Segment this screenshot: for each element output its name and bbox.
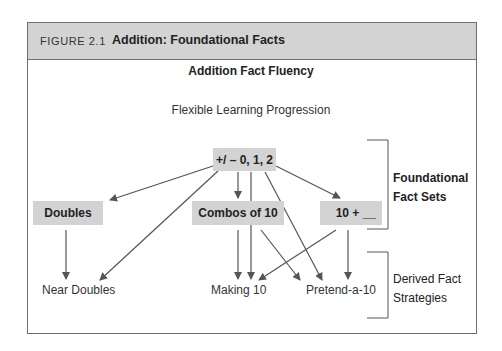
group-foundational-label: Foundational Fact Sets xyxy=(393,169,468,207)
node-near-doubles: Near Doubles xyxy=(42,283,115,297)
node-pretend-a-10: Pretend-a-10 xyxy=(306,283,376,297)
arrow-root-tenplus xyxy=(276,166,340,198)
arrow-root-near-doubles xyxy=(100,171,218,280)
node-doubles: Doubles xyxy=(33,201,103,225)
group-derived-line1: Derived Fact xyxy=(393,270,461,289)
node-combos-of-10: Combos of 10 xyxy=(192,201,284,225)
node-making-10: Making 10 xyxy=(211,283,266,297)
arrow-root-doubles xyxy=(110,166,213,200)
node-ten-plus: 10 + __ xyxy=(320,201,382,225)
group-derived-line2: Strategies xyxy=(393,289,461,308)
group-derived-label: Derived Fact Strategies xyxy=(393,270,461,308)
group-foundational-line2: Fact Sets xyxy=(393,188,468,207)
arrow-root-pretend xyxy=(265,172,322,280)
arrow-combos-pretend xyxy=(261,230,300,280)
group-foundational-line1: Foundational xyxy=(393,169,468,188)
node-root: +/ – 0, 1, 2 xyxy=(213,148,276,171)
arrow-tenplus-making10 xyxy=(259,230,336,280)
